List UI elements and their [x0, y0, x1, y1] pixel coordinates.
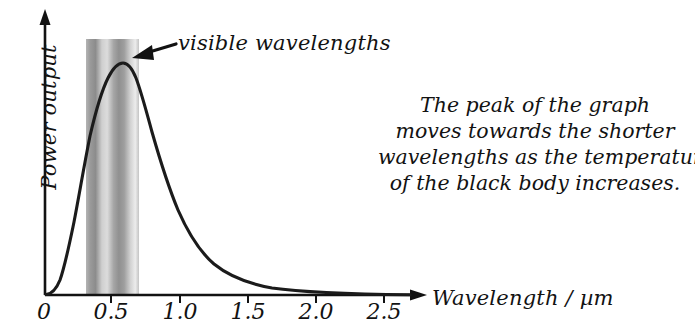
- x-axis-arrowhead-icon: [410, 290, 427, 301]
- x-tick-label-0-5: 0.5: [94, 299, 129, 324]
- y-axis-arrowhead-icon: [40, 9, 51, 25]
- x-tick-label-2-5: 2.5: [367, 299, 402, 324]
- caption-line: of the black body increases.: [378, 170, 692, 196]
- caption-line: The peak of the graph: [378, 92, 692, 118]
- caption-line: wavelengths as the temperature: [378, 144, 692, 170]
- x-tick-label-2-0: 2.0: [299, 299, 334, 324]
- x-tick-label-1-0: 1.0: [163, 299, 198, 324]
- x-tick-label-1-5: 1.5: [231, 299, 266, 324]
- x-axis-title: Wavelength / µm: [432, 286, 614, 310]
- caption-text-block: The peak of the graph moves towards the …: [378, 92, 692, 196]
- black-body-radiation-figure: 0 0.5 1.0 1.5 2.0 2.5 Power output Wavel…: [0, 0, 695, 334]
- visible-wavelengths-band: [86, 39, 139, 295]
- x-tick-label-0: 0: [37, 299, 51, 324]
- y-axis-title: Power output: [37, 32, 61, 202]
- visible-wavelengths-annotation-label: visible wavelengths: [178, 31, 391, 55]
- caption-line: moves towards the shorter: [378, 118, 692, 144]
